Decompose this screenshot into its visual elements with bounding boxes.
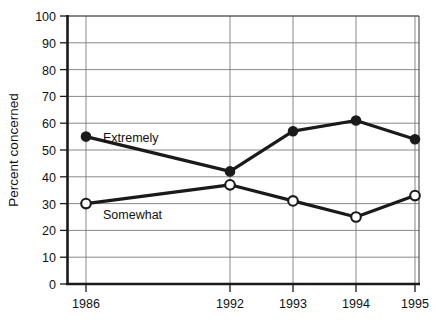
series-somewhat-point-1992 bbox=[225, 180, 235, 190]
xtick-label-1992: 1992 bbox=[216, 297, 244, 311]
ytick-label-50: 50 bbox=[42, 144, 56, 158]
xtick-label-1986: 1986 bbox=[72, 297, 100, 311]
xtick-label-1995: 1995 bbox=[401, 297, 429, 311]
ytick-label-10: 10 bbox=[42, 251, 56, 265]
y-axis-title: Percent concerned bbox=[6, 93, 21, 206]
ytick-label-30: 30 bbox=[42, 198, 56, 212]
ytick-label-80: 80 bbox=[42, 64, 56, 78]
line-chart: 100 90 80 70 60 50 40 30 20 10 0 1986 19… bbox=[0, 0, 441, 329]
chart-canvas: 100 90 80 70 60 50 40 30 20 10 0 1986 19… bbox=[0, 0, 441, 329]
series-extremely-point-1993 bbox=[288, 127, 297, 136]
series-somewhat-point-1993 bbox=[288, 196, 298, 206]
ytick-label-100: 100 bbox=[35, 10, 56, 24]
ytick-label-90: 90 bbox=[42, 37, 56, 51]
ytick-label-20: 20 bbox=[42, 224, 56, 238]
series-somewhat-point-1995 bbox=[410, 191, 420, 201]
chart-background bbox=[0, 0, 441, 329]
series-label-somewhat: Somewhat bbox=[103, 208, 163, 222]
xtick-label-1993: 1993 bbox=[279, 297, 307, 311]
xtick-label-1994: 1994 bbox=[342, 297, 370, 311]
series-extremely-point-1994 bbox=[351, 116, 360, 125]
series-label-extremely: Extremely bbox=[103, 131, 159, 145]
series-extremely-point-1986 bbox=[81, 132, 90, 141]
ytick-label-60: 60 bbox=[42, 117, 56, 131]
ytick-label-70: 70 bbox=[42, 90, 56, 104]
series-somewhat-point-1986 bbox=[81, 199, 91, 209]
series-extremely-point-1995 bbox=[410, 135, 419, 144]
ytick-label-40: 40 bbox=[42, 171, 56, 185]
series-somewhat-point-1994 bbox=[351, 212, 361, 222]
ytick-label-0: 0 bbox=[49, 278, 56, 292]
series-extremely-point-1992 bbox=[225, 167, 234, 176]
